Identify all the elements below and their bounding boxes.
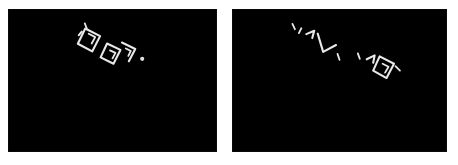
left-mark-box-3 bbox=[122, 43, 135, 62]
right-mark-tick-2 bbox=[299, 28, 301, 33]
right-mark-vee-1 bbox=[318, 34, 336, 52]
left-mark-box-1 bbox=[78, 29, 100, 52]
left-panel-marks bbox=[9, 10, 216, 151]
right-mark-hook-1 bbox=[306, 31, 314, 38]
right-mark-tail-1 bbox=[395, 66, 399, 70]
left-mark-dot-1 bbox=[140, 57, 144, 61]
image-pair-figure bbox=[0, 0, 458, 165]
left-image-panel[interactable] bbox=[8, 9, 217, 152]
right-mark-tick-1 bbox=[292, 24, 294, 29]
right-image-panel[interactable] bbox=[232, 9, 447, 152]
right-mark-tick-4 bbox=[358, 53, 360, 58]
right-mark-box-1 bbox=[373, 56, 394, 78]
left-mark-tick-1 bbox=[85, 23, 87, 28]
right-panel-marks bbox=[233, 10, 446, 151]
left-mark-box-2 bbox=[101, 44, 121, 64]
right-mark-tick-3 bbox=[338, 54, 340, 60]
right-mark-hook-2 bbox=[367, 55, 375, 62]
